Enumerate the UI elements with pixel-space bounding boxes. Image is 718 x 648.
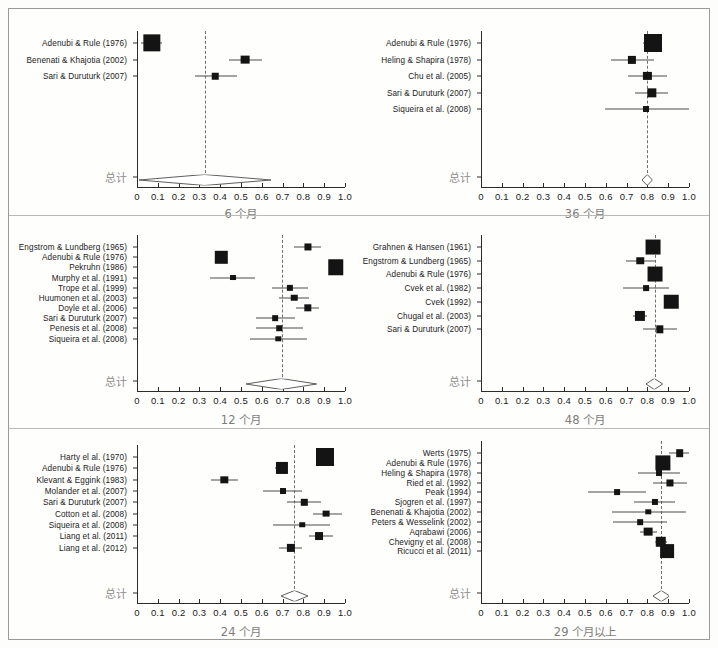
x-axis-tick-label: 0.6 bbox=[599, 607, 613, 618]
study-row-tick bbox=[133, 490, 137, 491]
effect-estimate-box bbox=[643, 72, 651, 80]
study-label: Siqueira et al. (2008) bbox=[361, 105, 471, 114]
effect-estimate-box bbox=[304, 243, 311, 250]
x-axis-tick bbox=[345, 599, 346, 603]
x-axis-tick-label: 0.1 bbox=[495, 607, 509, 618]
x-axis-tick bbox=[523, 599, 524, 603]
study-row-tick bbox=[477, 512, 481, 513]
x-axis-tick-label: 0.9 bbox=[661, 607, 675, 618]
study-label: Trope et al. (1999) bbox=[11, 283, 127, 292]
x-axis-tick bbox=[606, 387, 607, 391]
study-row-tick bbox=[133, 536, 137, 537]
study-row-tick bbox=[133, 328, 137, 329]
x-axis-tick bbox=[585, 599, 586, 603]
x-axis-tick bbox=[564, 183, 565, 187]
x-axis-tick-label: 0.8 bbox=[296, 395, 310, 406]
effect-estimate-box bbox=[643, 285, 649, 291]
panel-plot-1: 00.10.20.30.40.50.60.70.80.91.0Adenubi &… bbox=[359, 9, 709, 219]
y-axis-spine bbox=[481, 441, 482, 603]
x-axis-tick-label: 0.1 bbox=[151, 607, 165, 618]
x-axis-line bbox=[137, 187, 345, 188]
effect-estimate-box bbox=[643, 106, 649, 112]
forest-panel-2: 00.10.20.30.40.50.60.70.80.91.0Engstrom … bbox=[9, 219, 359, 429]
summary-row-tick bbox=[133, 177, 137, 178]
x-axis-tick bbox=[523, 183, 524, 187]
panel-title: 48 个月 bbox=[565, 411, 605, 427]
x-axis-tick-label: 0.3 bbox=[192, 395, 206, 406]
reference-line bbox=[294, 445, 295, 599]
study-row-tick bbox=[133, 457, 137, 458]
x-axis-tick-label: 0.9 bbox=[317, 607, 331, 618]
study-row-tick bbox=[133, 247, 137, 248]
x-axis-tick bbox=[324, 599, 325, 603]
study-label: Adenubi & Rule (1976) bbox=[361, 39, 471, 48]
reference-line bbox=[282, 235, 283, 387]
effect-estimate-box bbox=[276, 336, 281, 341]
x-axis-tick-label: 0.5 bbox=[578, 607, 592, 618]
x-axis-tick bbox=[199, 599, 200, 603]
study-label: Pekruhn (1986) bbox=[11, 263, 127, 272]
effect-estimate-box bbox=[628, 55, 636, 63]
effect-estimate-box bbox=[315, 532, 323, 540]
x-axis-tick-label: 0.4 bbox=[557, 395, 571, 406]
study-row-tick bbox=[477, 43, 481, 44]
effect-estimate-box bbox=[676, 449, 684, 457]
x-axis-tick-label: 0.3 bbox=[192, 607, 206, 618]
study-row-tick bbox=[133, 524, 137, 525]
forest-plot-figure: 00.10.20.30.40.50.60.70.80.91.0Adenubi &… bbox=[0, 0, 718, 648]
effect-estimate-box bbox=[241, 55, 250, 64]
summary-row-label: 总计 bbox=[361, 373, 471, 389]
x-axis-tick-label: 1.0 bbox=[682, 607, 696, 618]
study-label: Heling & Shapira (1978) bbox=[361, 55, 471, 64]
study-row-tick bbox=[477, 315, 481, 316]
x-axis-tick bbox=[481, 183, 482, 187]
effect-estimate-box bbox=[221, 476, 228, 483]
study-label: Klevant & Eggink (1983) bbox=[11, 475, 127, 484]
reference-line bbox=[205, 31, 206, 183]
x-axis-tick-label: 0.7 bbox=[276, 607, 290, 618]
summary-row-label: 总计 bbox=[361, 169, 471, 185]
study-label: Murphy et al. (1991) bbox=[11, 273, 127, 282]
x-axis-tick bbox=[627, 599, 628, 603]
x-axis-tick-label: 0.2 bbox=[172, 607, 186, 618]
x-axis-tick bbox=[606, 599, 607, 603]
x-axis-tick-label: 0.4 bbox=[557, 607, 571, 618]
study-row-tick bbox=[133, 547, 137, 548]
x-axis-tick-label: 0.4 bbox=[213, 607, 227, 618]
study-row-tick bbox=[133, 76, 137, 77]
effect-estimate-box bbox=[215, 251, 227, 263]
effect-estimate-box bbox=[328, 260, 343, 275]
summary-row-tick bbox=[133, 381, 137, 382]
x-axis-tick-label: 0.5 bbox=[578, 191, 592, 202]
x-axis-tick-label: 1.0 bbox=[682, 191, 696, 202]
x-axis-tick bbox=[627, 183, 628, 187]
effect-estimate-box bbox=[656, 470, 662, 476]
summary-diamond bbox=[642, 172, 652, 183]
x-axis-tick bbox=[564, 387, 565, 391]
effect-estimate-box bbox=[660, 545, 674, 559]
study-label: Sari & Duruturk (2007) bbox=[11, 72, 127, 81]
study-row-tick bbox=[477, 260, 481, 261]
x-axis-tick bbox=[647, 599, 648, 603]
study-row-tick bbox=[477, 541, 481, 542]
effect-estimate-box bbox=[230, 275, 236, 281]
x-axis-tick bbox=[481, 387, 482, 391]
study-row-tick bbox=[477, 247, 481, 248]
y-axis-spine bbox=[137, 31, 138, 187]
study-label: Heling & Shapira (1978) bbox=[361, 468, 471, 477]
panel-plot-4: 00.10.20.30.40.50.60.70.80.91.0Harty el … bbox=[9, 429, 359, 639]
summary-row-label: 总计 bbox=[11, 585, 127, 601]
study-label: Aqrabawi (2006) bbox=[361, 527, 471, 536]
summary-row-tick bbox=[477, 381, 481, 382]
x-axis-tick-label: 0.2 bbox=[172, 395, 186, 406]
x-axis-tick-label: 0.7 bbox=[276, 191, 290, 202]
forest-panel-3: 00.10.20.30.40.50.60.70.80.91.0Grahnen &… bbox=[359, 219, 709, 429]
study-row-tick bbox=[133, 308, 137, 309]
study-row-tick bbox=[477, 453, 481, 454]
effect-estimate-box bbox=[664, 295, 679, 310]
effect-estimate-box bbox=[652, 499, 658, 505]
effect-estimate-box bbox=[291, 295, 298, 302]
study-label: Sari & Duruturk (2007) bbox=[11, 498, 127, 507]
x-axis-tick bbox=[668, 183, 669, 187]
x-axis-tick-label: 0.3 bbox=[192, 191, 206, 202]
